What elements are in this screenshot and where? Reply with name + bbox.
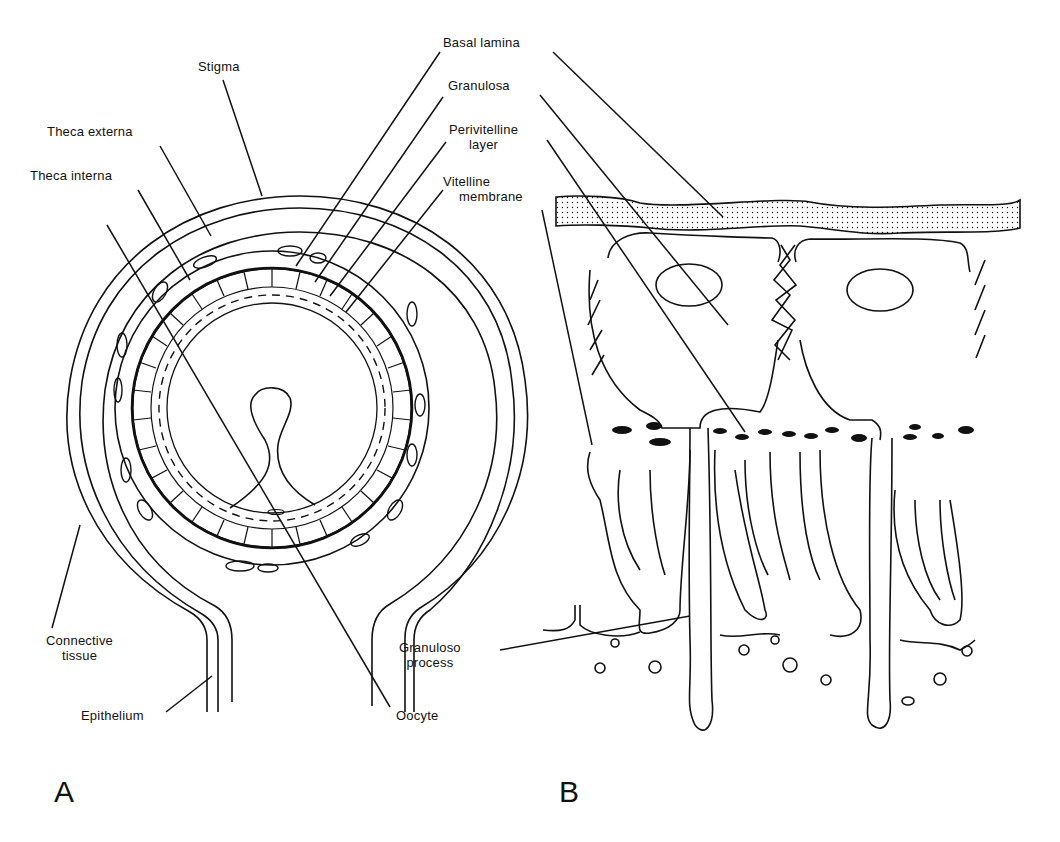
lateral-processes-center	[772, 245, 796, 360]
label-connective-tissue: Connective tissue	[46, 633, 113, 663]
perivitelline-layer	[159, 295, 385, 521]
granulosa-cell-1	[608, 233, 780, 262]
oolemma	[543, 605, 975, 650]
granuloso-process-1	[689, 428, 712, 730]
panel-letter-a: A	[54, 775, 74, 809]
oocyte-microvilli-center	[715, 450, 861, 636]
leader-lines-a	[52, 52, 446, 712]
label-oocyte: Oocyte	[396, 708, 438, 723]
germinal-vesicle	[230, 388, 315, 508]
label-theca-interna: Theca interna	[30, 168, 112, 183]
follicle-diagram	[0, 0, 1060, 842]
basal-lamina-band	[556, 196, 1020, 234]
label-basal-lamina: Basal lamina	[443, 35, 520, 50]
connective-tissue-boundary	[103, 232, 497, 706]
oocyte-microvilli-left	[588, 450, 690, 633]
granuloso-process-2	[867, 438, 892, 728]
label-perivitelline-layer: Perivitelline layer	[449, 122, 518, 152]
label-granuloso-process: Granuloso process	[399, 640, 461, 670]
label-granuloso-line1: Granuloso	[399, 640, 461, 655]
panel-b-section	[543, 196, 1020, 730]
label-vitelline-line1: Vitelline	[443, 174, 523, 189]
cortical-granules	[612, 422, 974, 446]
label-connective-line2: tissue	[46, 648, 113, 663]
label-granuloso-line2: process	[399, 655, 461, 670]
label-perivitelline-line2: layer	[449, 137, 518, 152]
lateral-processes-right	[975, 260, 985, 358]
panel-letter-b: B	[559, 775, 579, 809]
leader-lines-b	[500, 52, 745, 650]
label-stigma: Stigma	[198, 59, 240, 74]
label-granulosa: Granulosa	[448, 78, 510, 93]
nucleus-2	[847, 269, 913, 311]
label-connective-line1: Connective	[46, 633, 113, 648]
nucleus-1	[656, 264, 722, 306]
label-vitelline-membrane: Vitelline membrane	[443, 174, 523, 204]
label-perivitelline-line1: Perivitelline	[449, 122, 518, 137]
granulosa-inner	[151, 287, 393, 529]
label-vitelline-line2: membrane	[443, 189, 523, 204]
label-theca-externa: Theca externa	[47, 124, 133, 139]
oocyte-microvilli-right	[894, 490, 962, 625]
vitelline-membrane	[167, 303, 377, 513]
granulosa-cell-2	[795, 239, 970, 272]
label-epithelium: Epithelium	[81, 708, 144, 723]
